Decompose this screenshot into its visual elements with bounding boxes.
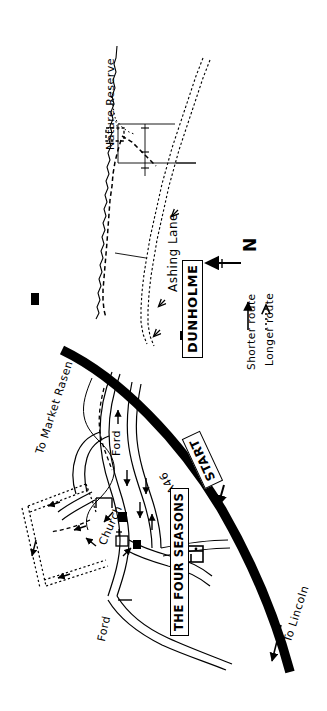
legend-label-shorter: Shorter route: [245, 293, 257, 370]
nature-reserve-boundary: [118, 124, 196, 176]
longer-route-field-loop: [22, 484, 108, 588]
label-nature-reserve: Nature Reserve: [104, 58, 117, 150]
label-the-four-seasons: THE FOUR SEASONS: [170, 488, 189, 636]
label-ford-upper: Ford: [110, 430, 123, 456]
building-icon: [133, 540, 141, 549]
legend-label-longer: Longer route: [263, 293, 275, 366]
map-canvas: Nature Reserve Ashing Lane DUNHOLME N Sh…: [0, 0, 327, 711]
legend-item-longer-route: Longer route: [263, 293, 275, 366]
church-icon: [116, 529, 128, 546]
legend-item-shorter-route: Shorter route: [245, 293, 257, 370]
map-linework: [0, 0, 327, 711]
label-dunholme: DUNHOLME: [182, 260, 203, 358]
north-arrow-icon: [206, 259, 241, 268]
side-spur-north: [115, 163, 196, 258]
building-icon: [31, 293, 39, 305]
compass-label-n: N: [240, 237, 260, 252]
label-ashing-lane: Ashing Lane: [166, 213, 180, 292]
longer-route-loop-arrows: [32, 502, 70, 578]
